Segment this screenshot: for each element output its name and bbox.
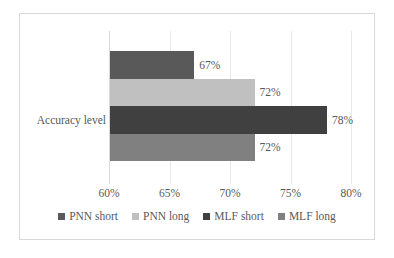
bar-row: 67% bbox=[110, 51, 351, 79]
x-tick-label: 70% bbox=[219, 187, 240, 199]
bar-value-label: 72% bbox=[255, 141, 281, 153]
legend-label: PNN short bbox=[69, 210, 118, 222]
x-axis-tick-labels: 60%65%70%75%80% bbox=[109, 187, 351, 205]
legend-label: PNN long bbox=[143, 210, 189, 222]
bar-row: 72% bbox=[110, 134, 351, 162]
bar-value-label: 72% bbox=[255, 86, 281, 98]
x-tick-label: 75% bbox=[280, 187, 301, 199]
bar-value-label: 67% bbox=[194, 59, 220, 71]
bar-value-label: 78% bbox=[327, 114, 353, 126]
legend-swatch-icon bbox=[203, 213, 210, 220]
bar-mlf-long[interactable] bbox=[110, 134, 255, 162]
legend-swatch-icon bbox=[278, 213, 285, 220]
chart-frame: Accuracy level 67%72%78%72% 60%65%70%75%… bbox=[19, 13, 375, 240]
plot-area: 67%72%78%72% bbox=[109, 31, 351, 184]
legend-item-pnn-long[interactable]: PNN long bbox=[132, 210, 189, 222]
bar-pnn-short[interactable] bbox=[110, 51, 194, 79]
x-tick-label: 80% bbox=[340, 187, 361, 199]
legend-swatch-icon bbox=[58, 213, 65, 220]
bar-pnn-long[interactable] bbox=[110, 79, 255, 107]
gridline bbox=[351, 31, 352, 184]
legend-item-mlf-short[interactable]: MLF short bbox=[203, 210, 264, 222]
legend-item-mlf-long[interactable]: MLF long bbox=[278, 210, 336, 222]
bar-row: 78% bbox=[110, 106, 351, 134]
bar-group: 67%72%78%72% bbox=[110, 51, 351, 161]
legend-swatch-icon bbox=[132, 213, 139, 220]
category-axis-label: Accuracy level bbox=[32, 114, 106, 126]
legend-item-pnn-short[interactable]: PNN short bbox=[58, 210, 118, 222]
x-tick-label: 65% bbox=[159, 187, 180, 199]
bar-row: 72% bbox=[110, 79, 351, 107]
chart-legend: PNN shortPNN longMLF shortMLF long bbox=[20, 210, 374, 222]
legend-label: MLF short bbox=[214, 210, 264, 222]
bar-mlf-short[interactable] bbox=[110, 106, 327, 134]
legend-label: MLF long bbox=[289, 210, 336, 222]
x-tick-label: 60% bbox=[98, 187, 119, 199]
